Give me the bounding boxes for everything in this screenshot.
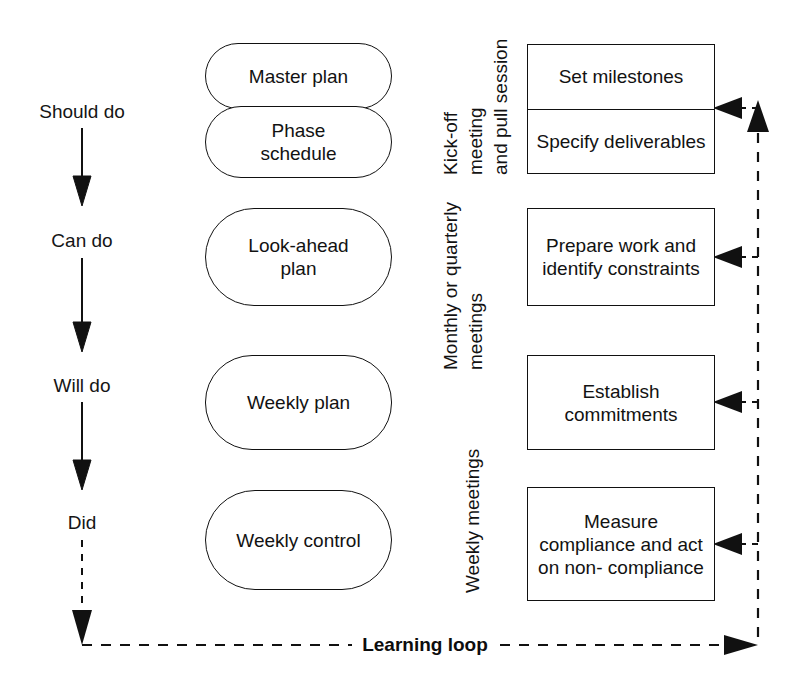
stage-label-did: Did xyxy=(68,512,97,534)
plan-pill-line: plan xyxy=(248,257,348,280)
feedback-connectors xyxy=(733,108,758,544)
activity-cell-line: Establish xyxy=(582,381,659,402)
did-loop-arrow-head xyxy=(72,610,92,645)
feedback-arrow-heads xyxy=(713,97,742,555)
kickoff-meeting-label-line: and pull session xyxy=(488,39,513,175)
activity-cell-line: constraints xyxy=(608,258,700,279)
monthly-quarterly-meetings-label: Monthly or quarterly meetings xyxy=(438,202,488,370)
plan-pill-master-plan[interactable]: Master plan xyxy=(205,43,392,109)
feedback-arrow-head-lookahead xyxy=(713,246,742,268)
kickoff-meeting-label-line: Kick-off xyxy=(438,39,463,175)
monthly-quarterly-meetings-label-line: Monthly or quarterly xyxy=(438,202,463,370)
activity-cell-line: Measure xyxy=(584,511,658,532)
kickoff-meeting-label-line: meeting xyxy=(463,39,488,175)
activity-cell-line: Specify xyxy=(537,131,599,152)
plan-pill-line: Look-ahead xyxy=(248,234,348,257)
activity-cell-establish-commitments: Establish commitments xyxy=(528,356,714,449)
weekly-meetings-label-line: Weekly meetings xyxy=(460,449,485,593)
plan-pill-line: Phase xyxy=(260,119,336,142)
diagram-canvas: Should do Can do Will do Did Master plan… xyxy=(0,0,797,685)
monthly-quarterly-meetings-label-line: meetings xyxy=(463,202,488,370)
loop-riser-arrow-head xyxy=(747,100,769,132)
plan-pill-line: Master plan xyxy=(249,65,348,88)
activity-box-weekly-control[interactable]: Measure compliance and act on non- compl… xyxy=(527,487,715,601)
loop-bottom-arrow-head xyxy=(724,635,758,655)
arrow-head-can-to-will xyxy=(73,322,91,352)
stage-label-should-do: Should do xyxy=(39,101,125,123)
feedback-arrow-head-weekly-plan xyxy=(713,391,742,413)
stage-flow-arrows xyxy=(73,128,91,490)
activity-cell-measure-compliance: Measure compliance and act on non- compl… xyxy=(528,488,714,600)
feedback-arrow-head-weekly-control xyxy=(713,533,742,555)
activity-cell-line: deliverables xyxy=(604,131,705,152)
stage-label-can-do: Can do xyxy=(51,230,112,252)
feedback-arrow-head-kickoff xyxy=(713,97,742,119)
activity-cell-line: Prepare work xyxy=(546,235,659,256)
activity-box-lookahead[interactable]: Prepare work and identify constraints xyxy=(527,208,715,306)
plan-pill-weekly-control[interactable]: Weekly control xyxy=(205,490,392,590)
activity-cell-line: compliance and xyxy=(539,534,672,555)
plan-pill-phase-schedule[interactable]: Phase schedule xyxy=(205,106,392,178)
arrow-head-should-to-can xyxy=(73,176,91,206)
activity-cell-prepare-work: Prepare work and identify constraints xyxy=(528,209,714,305)
activity-cell-set-milestones: Set milestones xyxy=(528,45,714,109)
plan-pill-line: Weekly plan xyxy=(247,391,350,414)
did-to-loop-connector xyxy=(72,540,92,645)
plan-pill-look-ahead-plan[interactable]: Look-ahead plan xyxy=(205,208,392,306)
activity-cell-line: commitments xyxy=(565,404,678,425)
kickoff-meeting-label: Kick-off meeting and pull session xyxy=(438,39,513,175)
learning-loop-caption: Learning loop xyxy=(356,634,494,656)
activity-box-weekly-plan[interactable]: Establish commitments xyxy=(527,355,715,450)
activity-box-kickoff[interactable]: Set milestones Specify deliverables xyxy=(527,44,715,174)
activity-cell-line: Set milestones xyxy=(559,66,684,87)
plan-pill-line: Weekly control xyxy=(236,529,360,552)
stage-label-will-do: Will do xyxy=(53,375,110,397)
activity-cell-line: compliance xyxy=(608,557,704,578)
activity-cell-specify-deliverables: Specify deliverables xyxy=(528,109,714,174)
arrow-head-will-to-did xyxy=(73,460,91,490)
plan-pill-weekly-plan[interactable]: Weekly plan xyxy=(205,355,392,450)
weekly-meetings-label: Weekly meetings xyxy=(460,449,485,593)
plan-pill-line: schedule xyxy=(260,142,336,165)
